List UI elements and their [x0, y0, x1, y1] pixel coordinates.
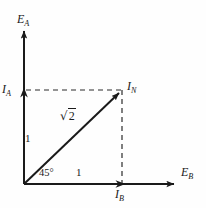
axis-label-e-b: EB: [181, 166, 193, 182]
angle-label-45-degrees: 45°: [39, 168, 54, 179]
magnitude-radicand: 2: [68, 108, 76, 123]
phasor-diagram-figure: EA EB IA IB IN √2 1 1 45°: [0, 0, 206, 208]
point-label-i-n-sub: N: [131, 86, 136, 95]
axis-label-e-a: EA: [17, 13, 29, 29]
point-label-i-b: IB: [115, 188, 124, 204]
point-label-i-a-sub: A: [6, 89, 11, 98]
leg-label-horizontal-one: 1: [76, 167, 82, 178]
axis-label-e-b-sub: B: [188, 172, 193, 181]
diagram-canvas: [0, 0, 206, 208]
point-label-i-b-sub: B: [119, 194, 124, 203]
axis-label-e-a-sub: A: [24, 19, 29, 28]
point-label-i-n: IN: [127, 80, 136, 96]
point-label-i-a: IA: [2, 83, 11, 99]
radical-icon: √: [60, 109, 68, 123]
leg-label-vertical-one: 1: [25, 133, 31, 144]
magnitude-label-sqrt-2: √2: [60, 110, 76, 122]
